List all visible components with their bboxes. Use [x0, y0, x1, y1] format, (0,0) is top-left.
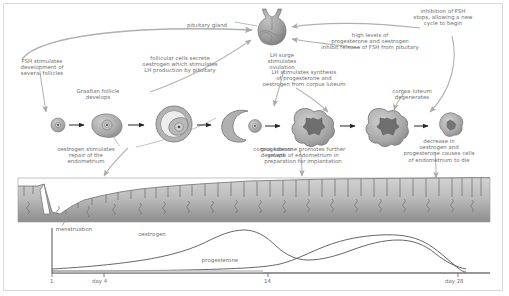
label-series-oestrogen: oestrogen	[122, 231, 182, 237]
label-lh-synthesis: LH stimulates synthesis of progesterone …	[244, 69, 364, 88]
label-follicular-cells: follicular cells secrete oestrogen which…	[125, 55, 235, 74]
label-decrease-in: decrease in oestrogen and progesterone c…	[386, 138, 492, 163]
label-graafian-follicle: Graafian follicle develops	[66, 88, 130, 100]
label-lh-surge: LH surge stimulates ovulation	[254, 52, 310, 71]
label-fsh-stimulates: FSH stimulates development of several fo…	[8, 58, 76, 77]
label-pituitary-gland: pituitary gland	[178, 22, 236, 28]
diagram-canvas: pituitary gland FSH stimulates developme…	[0, 0, 509, 296]
label-inhibition-stops: inhibition of FSH stops, allowing a new …	[399, 8, 487, 27]
x-tick-day28: day 28	[445, 278, 464, 284]
label-series-progesterone: progesterone	[186, 257, 254, 263]
label-oestrogen-repair: oestrogen stimulates repair of the endom…	[44, 146, 128, 165]
x-tick-day4: day 4	[92, 278, 107, 284]
label-menstruation: menstruation	[42, 226, 106, 232]
label-progesterone-growth: progesterone promotes further growth of …	[240, 146, 366, 165]
label-corpus-luteum-degenerates: corpus luteum degenerates	[380, 88, 444, 100]
x-tick-1: 1	[50, 278, 53, 284]
label-high-levels: high levels of progesterone and oestroge…	[300, 32, 440, 51]
x-tick-14: 14	[264, 278, 271, 284]
